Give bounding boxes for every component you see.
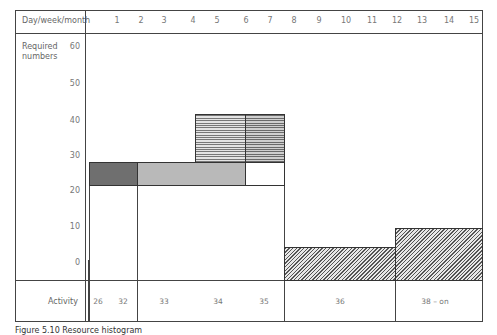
activity-36: 36	[332, 297, 348, 306]
column-10: 10	[338, 16, 354, 25]
column-12: 12	[389, 16, 405, 25]
y-axis-label: Required numbers	[22, 42, 62, 62]
y-tick-30: 30	[60, 151, 80, 160]
block-activity-26-32	[89, 162, 138, 186]
column-7: 7	[262, 16, 278, 25]
y-axis-label-text: Required numbers	[22, 42, 58, 61]
column-5: 5	[209, 16, 225, 25]
column-1: 1	[109, 16, 125, 25]
activity-33: 33	[156, 297, 172, 306]
column-3: 3	[156, 16, 172, 25]
block-activity-36	[284, 247, 396, 281]
column-13: 13	[414, 16, 430, 25]
column-6: 6	[238, 16, 254, 25]
y-tick-0: 0	[60, 258, 80, 267]
y-tick-60: 60	[60, 42, 80, 51]
y-tick-10: 10	[60, 222, 80, 231]
column-4: 4	[185, 16, 201, 25]
activity-38-on: 38 – on	[415, 297, 455, 306]
activity-row-label: Activity	[48, 297, 78, 306]
column-14: 14	[441, 16, 457, 25]
y-tick-40: 40	[60, 116, 80, 125]
block-activity-34-upper	[195, 114, 246, 163]
activity-32: 32	[115, 297, 131, 306]
activity-32-end-line	[137, 185, 138, 322]
block-activity-38-on	[395, 228, 483, 281]
label-column-divider	[85, 10, 86, 322]
row-label-header: Day/week/month	[22, 16, 90, 25]
column-11: 11	[364, 16, 380, 25]
y-tick-20: 20	[60, 186, 80, 195]
column-9: 9	[311, 16, 327, 25]
block-activity-35-lower	[245, 162, 285, 186]
block-activity-35-upper	[245, 114, 285, 163]
activity-34: 34	[210, 297, 226, 306]
y-tick-50: 50	[60, 79, 80, 88]
column-15: 15	[466, 16, 482, 25]
figure-caption: Figure 5.10 Resource histogram	[15, 326, 142, 335]
column-2: 2	[133, 16, 149, 25]
block-activity-33-34	[137, 162, 246, 186]
activity-26: 26	[90, 297, 106, 306]
activity-35: 35	[256, 297, 272, 306]
column-8: 8	[286, 16, 302, 25]
